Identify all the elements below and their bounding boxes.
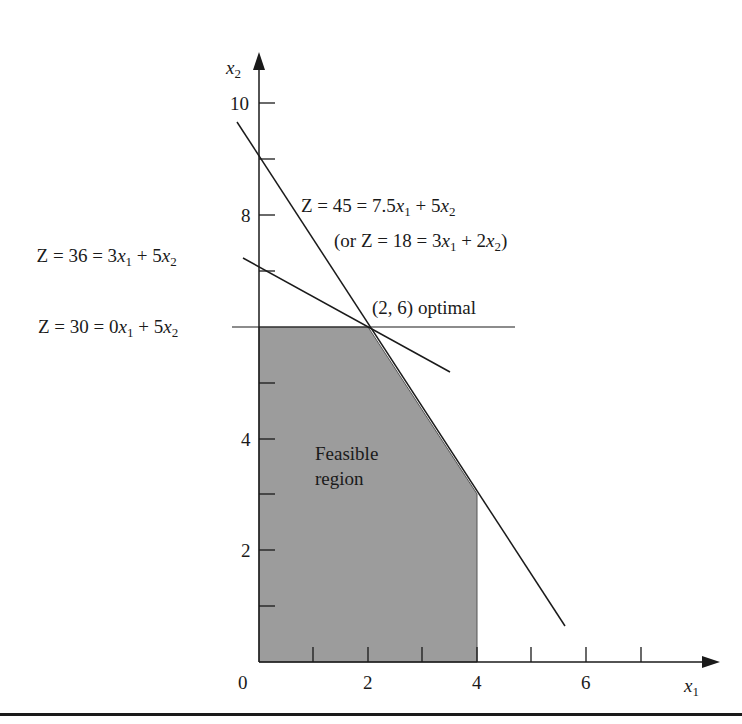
label-z18: (or Z = 18 = 3x1 + 2x2) [334, 231, 507, 250]
y-axis-label: x2 [226, 58, 241, 77]
feasible-region-label-line1: Feasible [315, 444, 378, 463]
x-axis-label: x1 [684, 676, 699, 695]
optimal-point-label: (2, 6) optimal [372, 298, 476, 317]
x-tick-2: 2 [363, 673, 373, 692]
feasible-region [259, 327, 477, 662]
y-tick-4: 4 [241, 430, 251, 449]
y-tick-8: 8 [241, 206, 251, 225]
label-z36: ZZ = 36 = 3x1 + 5x2 [38, 246, 177, 265]
feasible-region-label-line2: region [315, 469, 364, 488]
x-tick-4: 4 [472, 673, 482, 692]
y-axis-arrow-icon [253, 52, 265, 70]
y-tick-2: 2 [241, 541, 251, 560]
label-z30: Z = 30 = 0x1 + 5x2 [38, 317, 178, 336]
lp-graph [0, 0, 742, 724]
x-tick-6: 6 [581, 673, 591, 692]
label-z45: Z = 45 = 7.5x1 + 5x2 [301, 196, 455, 215]
x-axis-arrow-icon [702, 656, 720, 668]
bottom-rule [0, 713, 742, 716]
x-tick-0: 0 [238, 673, 248, 692]
y-tick-10: 10 [230, 94, 249, 113]
